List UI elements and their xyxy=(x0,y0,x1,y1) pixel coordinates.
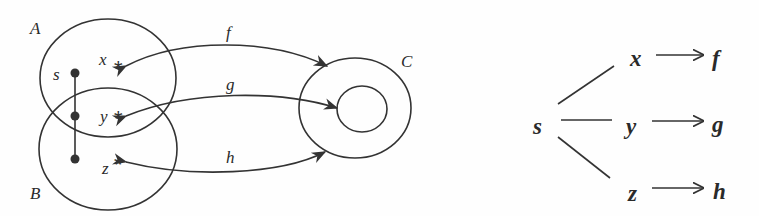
set-b-label: B xyxy=(30,184,41,203)
set-c-outer-ellipse xyxy=(299,58,411,158)
map-h-label: h xyxy=(226,148,235,167)
y-label: y xyxy=(98,107,108,126)
tree-target-f: f xyxy=(712,46,722,71)
s-end-dot xyxy=(71,155,80,164)
x-label: x xyxy=(98,50,107,69)
tree-target-h: h xyxy=(713,179,726,204)
set-c-label: C xyxy=(401,52,413,71)
branch-z-line xyxy=(558,137,610,178)
s-mid-dot xyxy=(71,112,80,121)
y-star-icon: * xyxy=(114,106,123,131)
set-a-ellipse xyxy=(40,19,176,137)
tree-node-x: x xyxy=(629,46,642,71)
map-g-arrow xyxy=(126,95,337,116)
set-c-inner-ellipse xyxy=(337,86,387,132)
s-label: s xyxy=(53,65,60,84)
diagram-canvas: A B s x y z * * * C f g h s x y z xyxy=(0,0,759,216)
right-diagram: s x y z f g h xyxy=(532,46,726,206)
z-star-icon: * xyxy=(114,152,123,177)
branch-x-line xyxy=(558,66,614,104)
s-start-dot xyxy=(71,69,80,78)
tree-node-z: z xyxy=(627,181,637,206)
z-label: z xyxy=(101,159,109,178)
tree-node-y: y xyxy=(623,114,637,139)
set-a-label: A xyxy=(29,19,41,38)
map-f-arrow xyxy=(126,45,327,66)
x-star-icon: * xyxy=(114,56,123,81)
tree-root-s: s xyxy=(532,114,542,139)
map-f-label: f xyxy=(226,23,233,42)
map-g-label: g xyxy=(226,75,235,94)
left-diagram: A B s x y z * * * C f g h xyxy=(29,19,413,210)
tree-target-g: g xyxy=(711,112,724,137)
